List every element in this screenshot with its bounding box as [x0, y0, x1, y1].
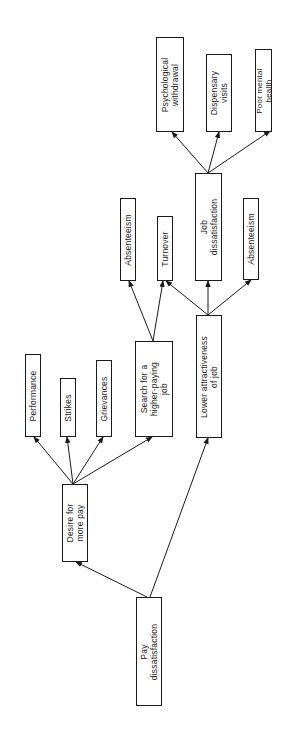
- node-label: Job dissatisfaction: [199, 199, 219, 255]
- node-psychological-withdrawal: Psychological withdrawal: [156, 37, 184, 132]
- node-lower-attractiveness: Lower attractiveness of job: [196, 315, 222, 438]
- node-label: Turnover: [160, 231, 170, 266]
- node-absenteeism-search: Absenteeism: [120, 198, 136, 281]
- arrow-lower-to-absenteeism: [208, 280, 251, 315]
- node-strikes: Strikes: [60, 378, 76, 437]
- node-label: Pay dissatisfaction: [139, 623, 159, 679]
- node-dispensary-visits: Dispensary visits: [206, 54, 232, 132]
- node-label: Strikes: [63, 394, 73, 421]
- node-absenteeism-lower: Absenteeism: [243, 198, 259, 280]
- arrow-desire-to-performance: [34, 437, 73, 484]
- node-search-higher-paying-job: Search for a higher-paying job: [135, 341, 173, 437]
- node-pay-dissatisfaction: Pay dissatisfaction: [136, 597, 162, 706]
- node-label: Lower attractiveness of job: [199, 336, 219, 418]
- node-label: Absenteeism: [246, 213, 256, 264]
- node-grievances: Grievances: [96, 360, 112, 437]
- node-job-dissatisfaction: Job dissatisfaction: [195, 173, 222, 281]
- node-desire-for-more-pay: Desire for more pay: [62, 484, 88, 562]
- node-poor-mental-health: Poor mental health: [255, 49, 272, 132]
- arrow-desire-to-grievances: [73, 437, 103, 484]
- node-label: Search for a higher-paying job: [139, 362, 169, 416]
- node-turnover: Turnover: [157, 216, 173, 281]
- arrow-search-to-absenteeism: [129, 281, 153, 341]
- node-label: Desire for more pay: [65, 504, 85, 543]
- arrow-job-to-withdrawal: [172, 132, 208, 173]
- arrow-desire-to-search: [73, 437, 152, 484]
- node-label: Absenteeism: [123, 214, 133, 265]
- arrow-search-to-turnover: [153, 281, 163, 341]
- arrow-desire-to-strikes: [67, 437, 73, 484]
- node-label: Poor mental health: [255, 68, 272, 113]
- node-label: Performance: [28, 370, 38, 421]
- arrow-lower-to-turnover: [166, 281, 208, 315]
- node-label: Psychological withdrawal: [160, 57, 180, 112]
- pay-dissatisfaction-flow-diagram: Pay dissatisfaction Desire for more pay …: [0, 0, 291, 732]
- arrow-pay-to-desire: [76, 562, 147, 597]
- node-label: Dispensary visits: [209, 71, 229, 116]
- node-label: Grievances: [99, 376, 109, 421]
- node-performance: Performance: [25, 354, 41, 437]
- arrow-pay-to-lower-attractiveness: [150, 438, 208, 597]
